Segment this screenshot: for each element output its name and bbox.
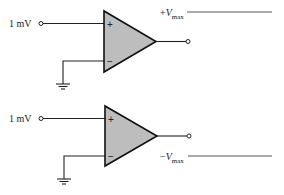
comparator-top: 1 mV + − +Vmax <box>9 7 272 89</box>
circuit-diagram: 1 mV + − +Vmax 1 mV + − −Vmax <box>0 0 284 195</box>
inverting-wire-top <box>63 61 104 84</box>
vmax-label-bottom: −Vmax <box>160 151 184 165</box>
output-terminal-bottom <box>187 134 191 138</box>
comparator-bottom: 1 mV + − −Vmax <box>9 106 272 184</box>
plus-sign-bottom: + <box>108 114 114 125</box>
input-terminal-top <box>39 22 43 26</box>
minus-sign-bottom: − <box>108 151 114 162</box>
input-label-bottom: 1 mV <box>9 113 32 124</box>
ground-icon <box>57 179 71 184</box>
minus-sign-top: − <box>107 56 113 67</box>
input-label-top: 1 mV <box>9 18 32 29</box>
ground-icon <box>56 84 70 89</box>
input-terminal-bottom <box>39 117 43 121</box>
plus-sign-top: + <box>107 19 113 30</box>
output-terminal-top <box>186 40 190 44</box>
inverting-wire-bottom <box>64 156 105 179</box>
vmax-label-top: +Vmax <box>160 7 184 21</box>
